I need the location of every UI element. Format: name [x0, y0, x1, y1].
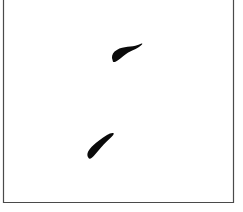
figure-svg [0, 0, 243, 212]
figure-background [0, 0, 243, 212]
figure-canvas [0, 0, 243, 212]
